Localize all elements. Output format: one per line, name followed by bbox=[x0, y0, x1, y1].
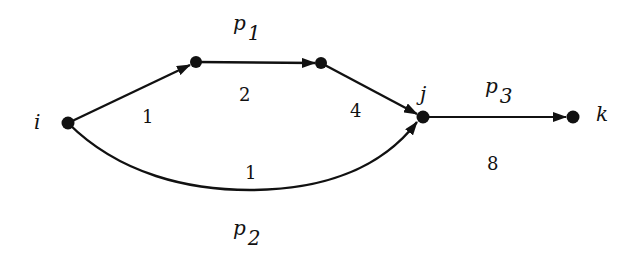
node-k bbox=[567, 111, 580, 124]
node-b bbox=[315, 57, 327, 69]
weight-a-b: 2 bbox=[239, 86, 250, 104]
path-label-p2: p2 bbox=[233, 218, 259, 238]
path-label-p1-base: p bbox=[233, 11, 246, 35]
edge-a-to-b bbox=[196, 62, 315, 63]
node-label-i: i bbox=[34, 112, 40, 132]
edge-i-to-a bbox=[68, 65, 190, 123]
weight-b-j: 4 bbox=[350, 102, 361, 120]
path-label-p3-sub: 3 bbox=[500, 84, 513, 108]
path-label-p2-base: p bbox=[233, 216, 246, 240]
node-label-k: k bbox=[596, 104, 608, 124]
node-label-j: j bbox=[420, 84, 426, 104]
node-i bbox=[62, 117, 75, 130]
node-j bbox=[417, 111, 430, 124]
weight-j-k: 8 bbox=[487, 155, 498, 173]
path-label-p1-sub: 1 bbox=[248, 21, 261, 45]
edge-i-to-j-curved bbox=[68, 122, 417, 190]
path-label-p3: p3 bbox=[485, 76, 511, 96]
node-a bbox=[190, 56, 202, 68]
graph-canvas bbox=[0, 0, 636, 264]
weight-i-j-curve: 1 bbox=[245, 164, 256, 182]
path-label-p3-base: p bbox=[485, 74, 498, 98]
path-label-p1: p1 bbox=[233, 13, 259, 33]
edge-b-to-j bbox=[321, 63, 417, 114]
weight-i-a: 1 bbox=[142, 108, 153, 126]
path-label-p2-sub: 2 bbox=[248, 226, 261, 250]
